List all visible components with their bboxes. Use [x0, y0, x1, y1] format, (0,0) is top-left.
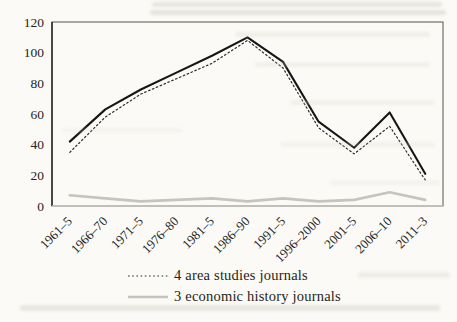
y-tick-label: 20: [31, 168, 45, 183]
legend-label: 4 area studies journals: [174, 267, 308, 284]
bleedthrough-text-artifact: [330, 180, 440, 185]
chart-legend: 4 area studies journals 3 economic histo…: [128, 265, 341, 307]
bleedthrough-text-artifact: [280, 142, 435, 147]
solid-gray-series-line: [70, 192, 425, 201]
bleedthrough-text-artifact: [358, 272, 450, 278]
bleedthrough-text-artifact: [290, 100, 435, 105]
bleedthrough-text-artifact: [152, 2, 442, 7]
x-tick-label: 1976–80: [139, 214, 182, 257]
scanned-book-page: 0204060801001201961–51966–701971–51976–8…: [0, 0, 457, 322]
x-tick-label: 1966–70: [68, 214, 111, 257]
y-tick-label: 60: [31, 107, 45, 122]
legend-item-economic-history-journals: 3 economic history journals: [128, 286, 341, 307]
y-tick-label: 120: [24, 15, 45, 30]
gray-line-swatch-icon: [128, 294, 168, 300]
y-tick-label: 80: [31, 76, 45, 91]
y-tick-label: 40: [31, 137, 45, 152]
bleedthrough-text-artifact: [150, 10, 446, 15]
bleedthrough-text-artifact: [62, 128, 182, 133]
bleedthrough-text-artifact: [235, 32, 430, 37]
y-tick-label: 100: [24, 45, 45, 60]
dotted-line-swatch-icon: [128, 273, 168, 279]
bleedthrough-text-artifact: [255, 62, 430, 67]
x-tick-label: 1986–90: [210, 214, 253, 257]
x-tick-label: 2011–3: [392, 214, 430, 252]
legend-item-area-studies-journals: 4 area studies journals: [128, 265, 341, 286]
y-tick-label: 0: [37, 199, 44, 214]
legend-label: 3 economic history journals: [174, 288, 341, 305]
x-tick-label: 2006–10: [352, 214, 395, 257]
